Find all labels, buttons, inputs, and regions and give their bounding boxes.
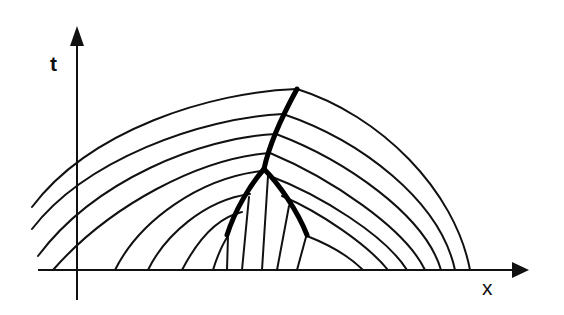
t-axis-label: t [50, 52, 57, 76]
inner-line-2 [242, 197, 249, 270]
left-arc-8 [213, 236, 228, 270]
right-characteristics [270, 89, 470, 270]
right-arc-7 [307, 236, 363, 270]
x-axis-arrow-icon [512, 262, 529, 278]
t-axis-arrow-icon [70, 26, 84, 46]
inner-characteristics [227, 176, 306, 270]
left-arc-2 [32, 114, 283, 229]
characteristics-diagram [0, 0, 564, 315]
right-arc-2 [283, 114, 455, 270]
inner-line-1 [227, 236, 228, 270]
x-axis-label: x [482, 276, 493, 300]
left-arc-6 [148, 194, 250, 270]
inner-line-3 [262, 176, 268, 270]
inner-line-5 [297, 237, 306, 270]
inner-line-4 [277, 206, 289, 270]
